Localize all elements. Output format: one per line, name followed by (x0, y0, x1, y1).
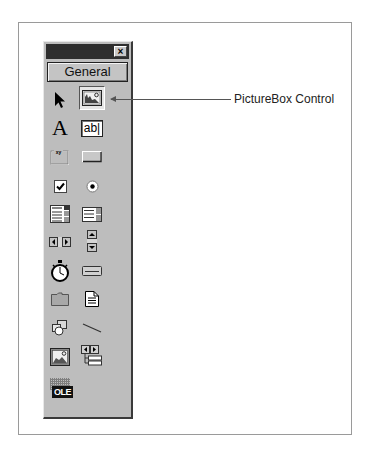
tool-option-button[interactable] (79, 174, 105, 198)
tool-command-button[interactable] (79, 145, 105, 169)
command-button-icon (82, 151, 102, 163)
callout-arrow-line (111, 99, 231, 100)
tool-pointer[interactable] (47, 88, 73, 112)
toolbox-titlebar[interactable]: × (46, 44, 129, 59)
toolbox-window: × General A ab| xy (43, 41, 133, 419)
tool-textbox[interactable]: ab| (79, 116, 105, 140)
checkbox-icon (54, 180, 67, 193)
tool-vscrollbar[interactable] (79, 225, 105, 257)
tool-drive-listbox[interactable] (79, 259, 105, 283)
file-listbox-icon (85, 291, 99, 307)
label-icon: A (52, 117, 68, 139)
tool-listbox[interactable] (79, 202, 105, 226)
general-tab-button[interactable]: General (47, 62, 128, 82)
callout-label: PictureBox Control (234, 92, 334, 106)
combobox-icon (50, 205, 70, 223)
shape-icon (51, 320, 69, 336)
tool-dir-listbox[interactable] (47, 287, 73, 311)
tool-picturebox[interactable] (79, 86, 105, 110)
tool-hscrollbar[interactable] (47, 230, 73, 254)
callout-arrow-head-icon (110, 96, 116, 102)
textbox-icon: ab| (81, 120, 103, 137)
listbox-icon (82, 207, 102, 222)
line-icon (82, 323, 102, 333)
drive-listbox-icon (82, 266, 102, 276)
tool-timer[interactable] (47, 259, 73, 283)
frame-icon: xy (50, 148, 70, 166)
picturebox-icon (82, 90, 102, 106)
tool-shape[interactable] (47, 316, 73, 340)
tool-line[interactable] (79, 316, 105, 340)
dir-listbox-icon (51, 292, 69, 306)
image-icon (50, 348, 70, 366)
hscrollbar-icon (49, 237, 71, 247)
tool-checkbox[interactable] (47, 174, 73, 198)
tool-label[interactable]: A (47, 116, 73, 140)
pointer-icon (53, 91, 67, 109)
tool-data[interactable] (79, 342, 105, 370)
data-icon (81, 345, 103, 367)
option-button-icon (86, 180, 99, 193)
ole-icon: OLE (50, 378, 70, 400)
tool-file-listbox[interactable] (79, 287, 105, 311)
timer-icon (50, 260, 70, 282)
vscrollbar-icon (87, 230, 97, 252)
close-button[interactable]: × (114, 46, 127, 57)
tool-ole[interactable]: OLE (47, 375, 73, 403)
tool-image[interactable] (47, 345, 73, 369)
tool-combobox[interactable] (47, 202, 73, 226)
tool-frame[interactable]: xy (47, 145, 73, 169)
svg-text:xy: xy (56, 149, 62, 155)
